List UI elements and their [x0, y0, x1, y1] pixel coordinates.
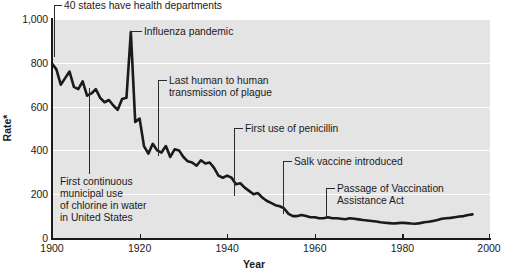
leader-plague-horizontal	[158, 80, 167, 81]
leader-influenza-vertical	[131, 31, 132, 36]
x-tickmark-1900	[52, 234, 53, 239]
y-axis-title: Rate*	[1, 105, 13, 151]
x-axis-title: Year	[0, 258, 508, 270]
x-tick-1900: 1900	[32, 243, 72, 254]
infectious-disease-mortality-chart: 1,000 800 600 400 200 0 1900 1920 1940 1…	[0, 0, 508, 279]
annotation-health-departments: 40 states have health departments	[64, 0, 222, 12]
x-tick-1940: 1940	[207, 243, 247, 254]
y-tick-1000: 1,000	[2, 14, 48, 24]
leader-vaccination-act-horizontal	[326, 188, 335, 189]
x-tickmark-1940	[227, 234, 228, 239]
leader-salk-horizontal	[283, 161, 292, 162]
leader-vaccination-act-vertical	[326, 188, 327, 217]
leader-influenza-horizontal	[131, 31, 142, 32]
annotation-vaccination-act-line2: Assistance Act	[337, 195, 404, 207]
leader-salk-vertical	[283, 161, 284, 214]
x-tickmark-1980	[402, 234, 403, 239]
leader-penicillin-horizontal	[234, 128, 243, 129]
x-tickmark-1960	[315, 234, 316, 239]
leader-penicillin-vertical	[234, 128, 235, 196]
annotation-plague-line2: transmission of plague	[169, 87, 272, 99]
annotation-chlorine-line3: of chlorine in water	[60, 200, 146, 212]
x-tick-1920: 1920	[120, 243, 160, 254]
x-tick-1980: 1980	[382, 243, 422, 254]
x-tickmark-1920	[140, 234, 141, 239]
x-axis-line	[51, 238, 491, 240]
y-tick-200: 200	[2, 189, 48, 199]
annotation-chlorine-line4: in United States	[60, 212, 133, 224]
x-tick-1960: 1960	[295, 243, 335, 254]
leader-chlorine-vertical	[89, 88, 90, 174]
leader-health-departments-vertical	[54, 5, 55, 57]
annotation-vaccination-act-line1: Passage of Vaccination	[337, 183, 444, 195]
x-tick-2000: 2000	[469, 243, 508, 254]
annotation-plague-line1: Last human to human	[169, 75, 269, 87]
annotation-salk: Salk vaccine introduced	[294, 156, 403, 168]
annotation-chlorine-line2: municipal use	[60, 188, 123, 200]
annotation-penicillin: First use of penicillin	[245, 123, 338, 135]
y-tick-800: 800	[2, 58, 48, 68]
annotation-influenza: Influenza pandemic	[144, 26, 233, 38]
leader-plague-vertical	[158, 80, 159, 156]
annotation-chlorine-line1: First continuous	[60, 176, 133, 188]
y-axis-line	[51, 18, 53, 239]
x-tickmark-2000	[489, 234, 490, 239]
leader-health-departments-horizontal	[54, 5, 62, 6]
